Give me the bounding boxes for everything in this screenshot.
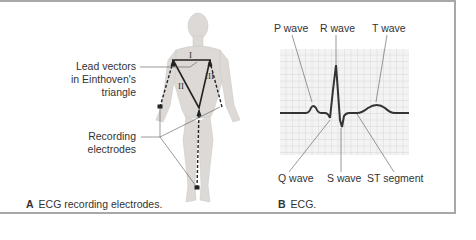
label-line: triangle bbox=[60, 86, 136, 99]
panel-letter: A bbox=[26, 198, 34, 210]
panel-letter: B bbox=[278, 198, 286, 210]
label-st-segment: ST segment bbox=[367, 172, 423, 185]
label-p-wave: P wave bbox=[274, 22, 308, 35]
label-recording-electrodes: Recording electrodes bbox=[60, 130, 136, 156]
lead-I-label: I bbox=[189, 50, 192, 60]
label-line: Lead vectors bbox=[60, 60, 136, 73]
label-r-wave: R wave bbox=[320, 22, 355, 35]
lead-III-label: III bbox=[205, 71, 214, 81]
caption-b: BECG. bbox=[278, 198, 316, 210]
label-lead-vectors: Lead vectors in Einthoven's triangle bbox=[60, 60, 136, 99]
label-line: electrodes bbox=[60, 143, 136, 156]
label-line: Recording bbox=[60, 130, 136, 143]
caption-text: ECG. bbox=[291, 198, 317, 210]
label-line: in Einthoven's bbox=[60, 73, 136, 86]
label-t-wave: T wave bbox=[372, 22, 406, 35]
lead-II-label: II bbox=[178, 81, 184, 91]
label-s-wave: S wave bbox=[327, 172, 361, 185]
caption-a: AECG recording electrodes. bbox=[26, 198, 162, 210]
label-q-wave: Q wave bbox=[278, 172, 314, 185]
caption-text: ECG recording electrodes. bbox=[39, 198, 163, 210]
